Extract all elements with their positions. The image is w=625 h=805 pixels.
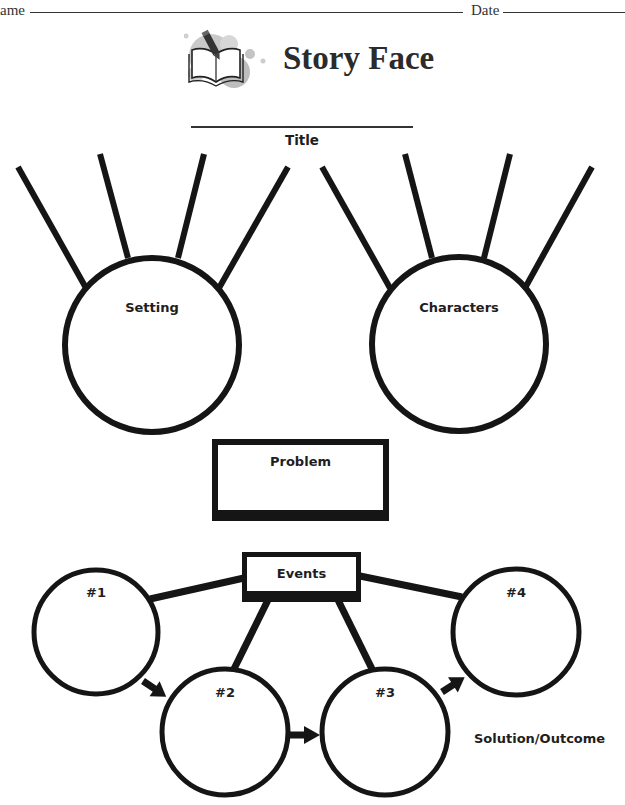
page-title: Story Face: [283, 40, 434, 76]
arrow-2-to-3-icon: [290, 726, 320, 744]
characters-detail-line-1: [322, 167, 390, 288]
title-label: Title: [191, 132, 413, 148]
setting-detail-line-4: [219, 167, 288, 288]
name-label: ame: [0, 0, 25, 20]
events-box: Events: [242, 552, 361, 602]
characters-detail-line-2: [405, 154, 432, 258]
solution-outcome-label: Solution/Outcome: [474, 731, 605, 746]
date-field[interactable]: [503, 12, 625, 13]
problem-box[interactable]: Problem: [212, 439, 389, 521]
title-field[interactable]: [191, 126, 413, 128]
event-3-write-area[interactable]: [327, 674, 443, 790]
characters-label: Characters: [409, 300, 509, 315]
event-2-write-area[interactable]: [167, 674, 283, 790]
problem-label: Problem: [218, 454, 383, 469]
arrow-1-to-2-icon: [138, 674, 171, 705]
events-to-2-line: [233, 600, 268, 671]
setting-label: Setting: [102, 300, 202, 315]
setting-detail-line-3: [178, 154, 204, 258]
characters-detail-line-3: [484, 154, 510, 258]
events-to-4-line: [360, 576, 462, 597]
date-label: Date: [471, 0, 499, 20]
arrow-3-to-4-icon: [437, 670, 469, 700]
characters-write-area[interactable]: [375, 260, 543, 428]
events-to-3-line: [338, 600, 373, 671]
setting-detail-line-2: [100, 154, 128, 258]
characters-detail-line-4: [525, 167, 592, 288]
setting-detail-line-1: [18, 167, 86, 288]
setting-write-area[interactable]: [68, 261, 236, 429]
event-4-write-area[interactable]: [458, 574, 574, 690]
book-pencil-icon: [184, 26, 276, 90]
events-label: Events: [247, 566, 356, 581]
event-1-write-area[interactable]: [38, 574, 154, 690]
name-field[interactable]: [30, 12, 463, 13]
events-to-1-line: [150, 578, 244, 599]
